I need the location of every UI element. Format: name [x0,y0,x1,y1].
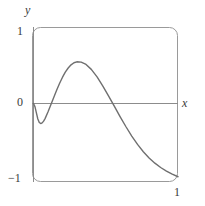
y-axis-label: y [25,4,30,16]
x-axis-label: x [182,97,187,109]
calculator-viewport-frame [33,28,178,182]
plotted-curve [34,62,179,177]
y-max-tick-label: 1 [17,25,23,37]
origin-tick-label: 0 [17,96,23,108]
x-max-tick-label: 1 [174,186,180,198]
plot-canvas [0,0,205,206]
function-graph-figure: y x 1 0 −1 1 [0,0,205,206]
y-min-tick-label: −1 [8,172,21,184]
